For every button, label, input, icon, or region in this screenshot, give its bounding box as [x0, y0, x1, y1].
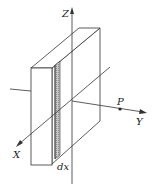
slab-diagram: Z X Y P dx	[0, 0, 154, 184]
y-axis-negative-stub	[10, 89, 31, 91]
z-axis-arrow-icon	[70, 7, 74, 14]
y-axis-label: Y	[136, 116, 144, 127]
point-p	[118, 107, 121, 110]
y-axis-arrow-icon	[139, 109, 147, 114]
point-p-label: P	[116, 96, 124, 107]
z-axis-label: Z	[61, 8, 70, 19]
x-axis-label: X	[12, 149, 21, 160]
strip-dx-label: dx	[57, 161, 69, 172]
slab-front-face	[31, 68, 52, 165]
